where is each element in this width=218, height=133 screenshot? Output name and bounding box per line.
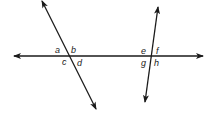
angle-label-c: c bbox=[62, 57, 67, 67]
angle-label-e: e bbox=[141, 46, 146, 56]
angle-label-a: a bbox=[55, 45, 60, 55]
left-transversal-line bbox=[42, 1, 96, 109]
angle-label-d: d bbox=[77, 58, 83, 68]
angle-label-b: b bbox=[71, 45, 76, 55]
angle-label-g: g bbox=[141, 58, 146, 68]
transversal-diagram: a b c d e f g h bbox=[0, 0, 218, 133]
angle-label-h: h bbox=[154, 58, 159, 68]
angle-label-f: f bbox=[156, 46, 160, 56]
